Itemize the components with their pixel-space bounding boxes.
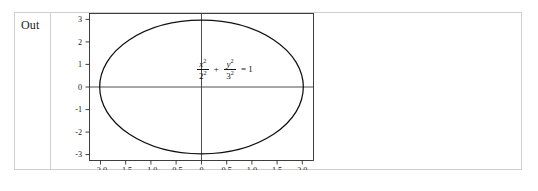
x-tick-label: 1.0 — [247, 166, 257, 171]
output-label-cell: Out — [15, 13, 51, 169]
equation-plus-sign: + — [212, 65, 221, 74]
equation-y-numerator-exponent: 2 — [230, 57, 233, 64]
plot-container[interactable]: 3 2 1 0 -1 -2 -3 -2 — [51, 13, 521, 169]
x-ticks — [101, 161, 303, 165]
output-cell: Out 3 2 1 0 — [14, 12, 522, 170]
x-tick-label: -1.5 — [119, 166, 132, 171]
y-tick-label: -2 — [75, 128, 82, 137]
equation-x-numerator-exponent: 2 — [203, 57, 206, 64]
y-ticks — [86, 19, 90, 154]
y-tick-label: 0 — [78, 83, 82, 92]
equation-x-fraction: x2 22 — [197, 58, 209, 81]
x-tick-label: 2.0 — [297, 166, 307, 171]
y-tick-label: -1 — [75, 105, 82, 114]
y-tick-labels: 3 2 1 0 -1 -2 -3 — [75, 15, 82, 159]
x-tick-label: 0 — [199, 166, 203, 171]
equation-y-denominator: 32 — [224, 70, 236, 81]
y-tick-label: 2 — [78, 38, 82, 47]
y-tick-label: 3 — [78, 15, 82, 24]
output-label: Out — [21, 18, 40, 33]
x-tick-labels: -2.0 -1.5 -1.0 -0.5 0 0.5 1.0 1.5 2.0 — [94, 166, 307, 171]
equation-y-denominator-exponent: 2 — [231, 69, 234, 76]
y-tick-label: -3 — [75, 150, 82, 159]
y-tick-label: 1 — [78, 60, 82, 69]
equation-x-denominator: 22 — [197, 70, 209, 81]
x-tick-label: 0.5 — [222, 166, 232, 171]
ellipse-equation-annotation: x2 22 + y2 32 = 1 — [196, 58, 255, 81]
x-tick-label: -2.0 — [94, 166, 107, 171]
x-tick-label: 1.5 — [272, 166, 282, 171]
equation-y-fraction: y2 32 — [224, 58, 236, 81]
equation-x-denominator-exponent: 2 — [204, 69, 207, 76]
x-tick-label: -0.5 — [170, 166, 183, 171]
ellipse-plot: 3 2 1 0 -1 -2 -3 -2 — [51, 13, 521, 170]
x-tick-label: -1.0 — [144, 166, 157, 171]
equation-equals-one: = 1 — [239, 65, 255, 74]
